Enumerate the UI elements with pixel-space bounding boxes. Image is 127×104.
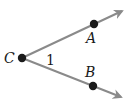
- ray-ca: [22, 11, 122, 58]
- label-c: C: [4, 50, 15, 66]
- label-b: B: [84, 64, 95, 80]
- point-c: [18, 54, 26, 62]
- point-a: [90, 20, 98, 28]
- label-a: A: [84, 30, 96, 46]
- angle-diagram: C A B 1: [0, 0, 127, 104]
- angle-label-1: 1: [46, 52, 55, 68]
- ray-cb: [22, 58, 121, 97]
- point-b: [89, 82, 97, 90]
